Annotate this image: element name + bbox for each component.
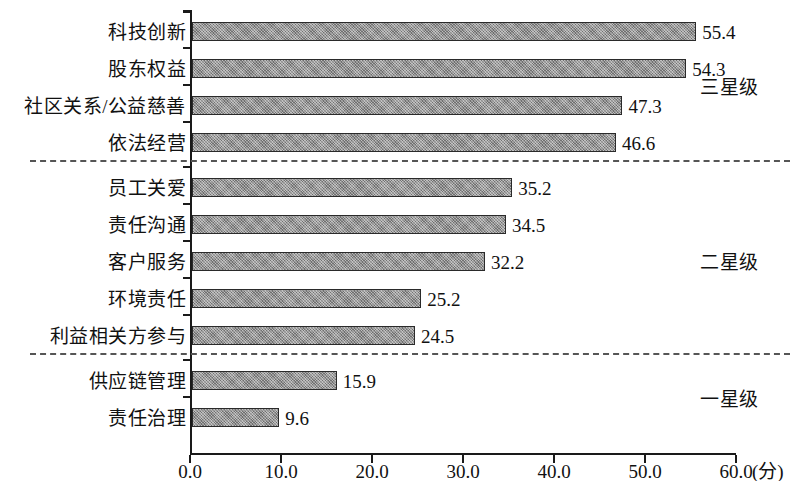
bar-value-label: 32.2 [491,253,524,272]
bar [192,59,686,78]
bar-chart: 科技创新55.4股东权益54.3社区关系/公益慈善47.3依法经营46.6员工关… [0,0,801,481]
y-axis-tick [183,240,190,242]
bar [192,215,506,234]
y-axis-tick [183,84,190,86]
y-axis-tick [183,277,190,279]
y-axis-tick [183,166,190,168]
group-rating-label: 二星级 [700,253,759,272]
x-axis-tick-label: 30.0 [446,462,479,481]
bar-value-label: 55.4 [702,23,735,42]
category-label: 员工关爱 [108,179,186,198]
y-axis-tick [183,396,190,398]
x-axis-tick-label: 0.0 [178,462,202,481]
category-label: 客户服务 [108,253,186,272]
bar [192,178,512,197]
bar-value-label: 47.3 [628,97,661,116]
bar [192,22,696,41]
y-axis-tick [183,121,190,123]
x-axis-tick-label: 20.0 [355,462,388,481]
bar-value-label: 34.5 [512,216,545,235]
bar-value-label: 9.6 [285,409,309,428]
category-label: 责任沟通 [108,216,186,235]
category-label: 责任治理 [108,409,186,428]
bar-value-label: 35.2 [518,179,551,198]
group-separator [30,160,790,162]
category-label: 股东权益 [108,60,186,79]
group-rating-label: 一星级 [700,390,759,409]
plot-area: 科技创新55.4股东权益54.3社区关系/公益慈善47.3依法经营46.6员工关… [0,0,801,481]
x-axis-tick-label: 60.0 [719,462,752,481]
bar-value-label: 24.5 [421,327,454,346]
category-label: 科技创新 [108,23,186,42]
bar [192,289,421,308]
category-label: 供应链管理 [89,372,187,391]
y-axis-tick [183,203,190,205]
bar [192,408,279,427]
x-axis-tick-label: 50.0 [628,462,661,481]
bar-value-label: 46.6 [622,134,655,153]
category-label: 利益相关方参与 [50,327,187,346]
x-axis-tick-label: 40.0 [537,462,570,481]
x-axis-unit-label: (分) [752,462,784,481]
bar [192,96,622,115]
y-axis-tick [183,314,190,316]
group-separator [30,353,790,355]
bar [192,252,485,271]
bar [192,133,616,152]
y-axis-tick [183,359,190,361]
group-rating-label: 三星级 [700,78,759,97]
bar-value-label: 15.9 [343,372,376,391]
bar [192,371,337,390]
y-axis-tick [183,47,190,49]
x-axis-tick-label: 10.0 [264,462,297,481]
bar [192,326,415,345]
y-axis-tick [183,11,190,13]
category-label: 社区关系/公益慈善 [24,97,186,116]
category-label: 依法经营 [108,134,186,153]
category-label: 环境责任 [108,290,186,309]
bar-value-label: 25.2 [427,290,460,309]
